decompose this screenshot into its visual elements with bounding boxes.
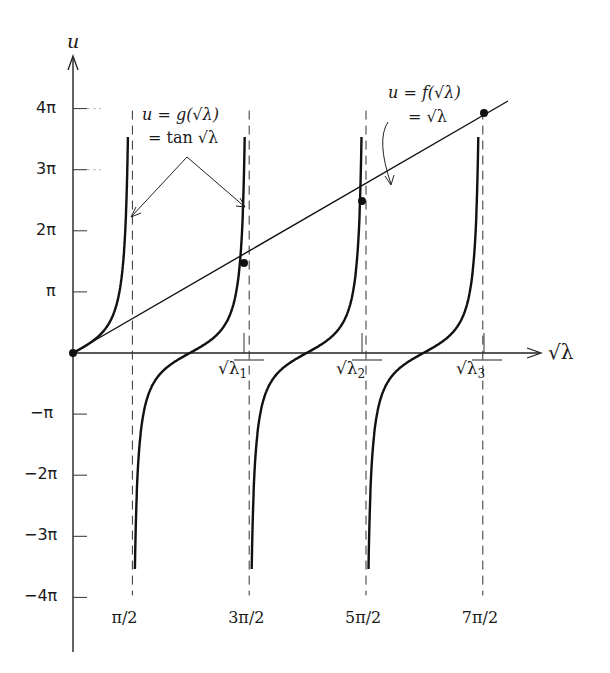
y-tick-label: −4π — [24, 586, 57, 605]
annotations — [69, 101, 508, 360]
x-tick-label: π/2 — [111, 608, 137, 627]
f-arrow — [383, 122, 391, 184]
lambda2-label: √λ2 — [336, 358, 365, 381]
y-tick-label: −π — [30, 403, 53, 422]
g-arrow-left — [131, 157, 187, 217]
y-axis-label: u — [67, 30, 79, 52]
y-tick-label: 2π — [36, 220, 56, 239]
f-label-line2: = √λ — [408, 107, 447, 126]
lambda1-sub: 1 — [240, 367, 248, 381]
lambda3-label: √λ3 — [456, 358, 485, 381]
y-tick-label: −3π — [24, 525, 57, 544]
lambda2-text: √λ — [336, 358, 358, 378]
g-label-line1: u = g(√λ) — [142, 105, 219, 124]
f-label-line1: u = f(√λ) — [388, 83, 461, 102]
g-label-line2: = tan √λ — [148, 128, 218, 147]
lambda2-sub: 2 — [358, 367, 366, 381]
y-tick-label: 4π — [36, 98, 56, 117]
lambda1-label: √λ1 — [218, 358, 247, 381]
intersection-dot-2 — [358, 197, 366, 205]
x-axis-label: √λ — [548, 340, 573, 364]
eigenvalue-figure: u √λ 4π3π2ππ−π−2π−3π−4π π/23π/25π/27π/2 … — [0, 0, 610, 673]
lambda3-text: √λ — [456, 358, 478, 378]
x-tick-label: 5π/2 — [345, 608, 381, 627]
y-tick-label: 3π — [36, 159, 56, 178]
y-tick-label: π — [46, 281, 56, 300]
y-tick-label: −2π — [24, 464, 57, 483]
g-arrow-right — [187, 157, 245, 207]
lambda3-sub: 3 — [478, 367, 486, 381]
intersection-dot-3 — [480, 109, 488, 117]
f-line — [73, 101, 508, 353]
plot-area — [0, 0, 610, 673]
x-tick-label: 7π/2 — [462, 608, 498, 627]
origin-dot — [69, 349, 77, 357]
x-tick-label: 3π/2 — [228, 608, 264, 627]
intersection-dot-1 — [240, 259, 248, 267]
lambda1-text: √λ — [218, 358, 240, 378]
